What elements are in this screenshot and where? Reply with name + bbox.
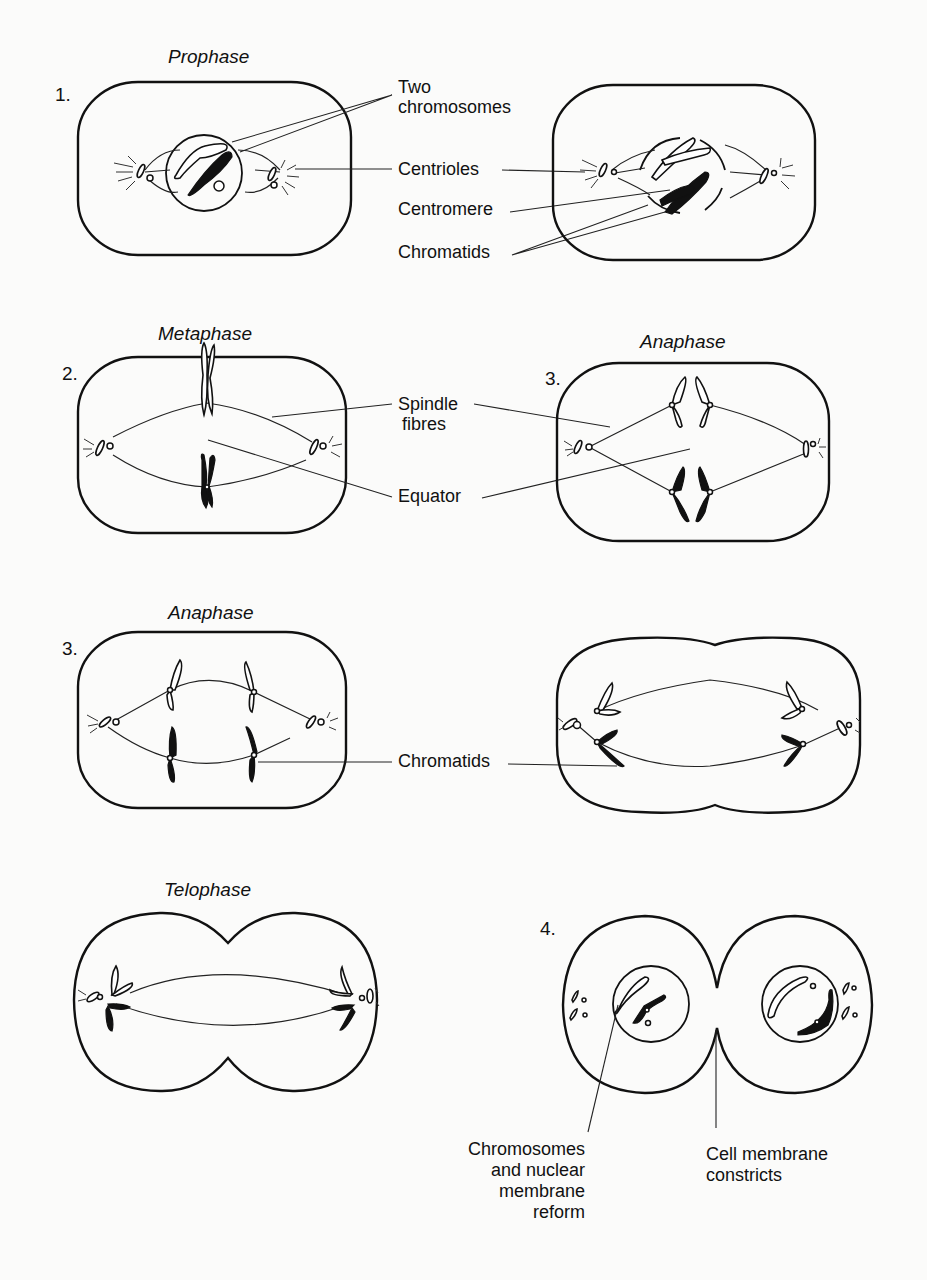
centriole-left [87,715,119,733]
stage-number-3b: 3. [62,638,78,659]
panel-anaphase-late [557,638,860,813]
centriole-right [835,718,860,736]
label-chromatids-anaphase: Chromatids [398,751,490,771]
cell-membrane [74,913,377,1091]
centriole-right [804,438,827,458]
chromatids-black [670,467,713,522]
chromosome-white-x [652,138,710,180]
stage-number-4: 4. [540,918,556,939]
centriole-left [114,156,153,190]
spindle-fibres [116,975,350,1026]
centriole-left [558,717,581,731]
label-chromatids-prophase: Chromatids [398,242,490,262]
label-spindle-fibres: Spindle [398,394,458,414]
chromosome-white-metaphase [202,343,215,415]
label-spindle-fibres-line2: fibres [402,414,446,434]
label-centromere: Centromere [398,199,493,219]
stage-title-metaphase: Metaphase [158,323,252,344]
centriole-left [83,439,113,457]
daughter-nucleus-right [762,966,857,1042]
chromatids-white [112,966,353,996]
centriole-left [78,990,103,1003]
mitosis-diagram: Prophase 1. Two chromosomes Centrioles C… [0,0,927,1280]
panel-anaphase-early: Anaphase 3. [545,331,829,541]
cell-membrane [557,638,860,813]
centriole-right [758,158,795,189]
chromatids-black [168,727,258,782]
centriole-left [580,160,617,188]
chromatids-black [595,730,806,767]
label-equator: Equator [398,486,461,506]
label-two-chromosomes-line2: chromosomes [398,97,511,117]
panel-anaphase-mid: Anaphase 3. [62,602,346,808]
label-chromosomes-reform: Chromosomes [468,1139,585,1159]
labels-bottom: Chromosomes and nuclear membrane reform … [468,1139,828,1222]
cell-membrane [563,916,872,1093]
panel-metaphase: Metaphase 2. [62,323,346,533]
stage-title-telophase: Telophase [164,879,251,900]
panel-prophase-2 [553,85,815,260]
panel-prophase-1: Prophase 1. [55,46,351,255]
chromatids-white [670,377,713,427]
stage-title-anaphase-2: Anaphase [167,602,254,623]
labels-metaphase-anaphase: Spindle fibres Equator [208,394,690,506]
label-chromosomes-reform-line3: membrane [499,1181,585,1201]
centriole-left [564,440,592,456]
spindle-fibres [589,405,806,492]
spindle-fibres [108,680,310,763]
chromatids-black [106,1004,355,1031]
centriole-right [308,436,342,457]
spindle-fibres [575,680,840,767]
stage-title-prophase: Prophase [168,46,249,67]
stage-title-anaphase: Anaphase [639,331,726,352]
nucleolus [214,181,224,191]
panel-telophase-division: 4. [540,916,872,1132]
centriole-right [267,160,299,195]
label-centrioles: Centrioles [398,159,479,179]
stage-number-1: 1. [55,84,71,105]
stage-number-2: 2. [62,363,78,384]
label-chromosomes-reform-line2: and nuclear [491,1160,585,1180]
chromosome-black-x [660,172,709,214]
chromatids-white [595,682,805,719]
label-chromosomes-reform-line4: reform [533,1202,585,1222]
daughter-nucleus-left [570,966,689,1042]
label-cell-membrane-constricts-line2: constricts [706,1165,782,1185]
leader-reform [588,1005,618,1132]
label-cell-membrane-constricts: Cell membrane [706,1144,828,1164]
chromosome-black-metaphase [201,454,215,508]
stage-number-3: 3. [545,368,561,389]
label-two-chromosomes: Two [398,77,431,97]
panel-telophase: Telophase [74,879,379,1091]
centriole-right [305,712,338,730]
